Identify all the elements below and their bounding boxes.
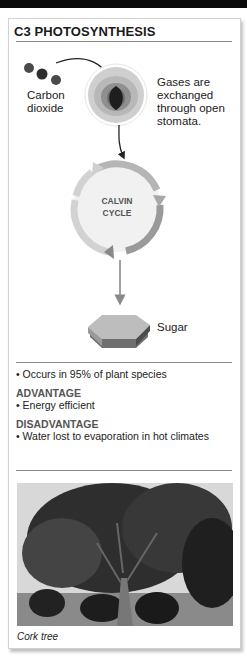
tree-image-icon (17, 483, 233, 626)
gas-to-cycle-arrow (119, 125, 123, 156)
sugar-hexagon-icon (88, 315, 150, 348)
calvin-cycle-label-2: CYCLE (103, 208, 132, 218)
facts-divider (16, 470, 232, 471)
sugar-label: Sugar (157, 321, 188, 334)
advantage-item: • Energy efficient (16, 399, 236, 411)
photo-caption: Cork tree (17, 631, 58, 642)
stomata-icon (85, 64, 147, 126)
advantage-heading: ADVANTAGE (16, 387, 236, 399)
co2-label-line2: dioxide (27, 102, 65, 115)
co2-label: Carbon dioxide (27, 89, 65, 115)
stomata-label-line4: stomata. (157, 115, 225, 128)
calvin-cycle-label-1: CALVIN (101, 196, 132, 206)
stomata-label-line3: through open (157, 102, 225, 115)
c3-diagram: CALVIN CYCLE (0, 0, 247, 370)
carbon-dioxide-molecule-icon (24, 63, 61, 85)
stomata-label-line2: exchanged (157, 89, 225, 102)
cork-tree-photo (17, 483, 233, 626)
disadvantage-item: • Water lost to evaporation in hot clima… (16, 430, 236, 442)
stomata-label: Gases are exchanged through open stomata… (157, 76, 225, 128)
occurrence-fact: • Occurs in 95% of plant species (16, 368, 236, 380)
diagram-divider (16, 362, 232, 363)
disadvantage-heading: DISADVANTAGE (16, 418, 236, 430)
facts-list: • Occurs in 95% of plant species ADVANTA… (16, 368, 236, 442)
co2-label-line1: Carbon (27, 89, 65, 102)
stomata-label-line1: Gases are (157, 76, 225, 89)
